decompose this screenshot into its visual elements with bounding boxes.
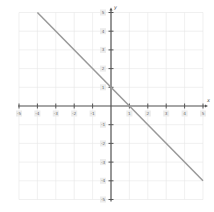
y-tick-label: 5 bbox=[102, 10, 105, 15]
y-tick-label: -1 bbox=[101, 122, 106, 127]
x-tick-label: -3 bbox=[54, 111, 59, 116]
x-tick-label: 5 bbox=[202, 111, 205, 116]
x-axis-label: x bbox=[206, 97, 210, 103]
y-tick-label: 4 bbox=[102, 29, 105, 34]
x-tick-label: -2 bbox=[72, 111, 77, 116]
y-axis-label: y bbox=[113, 4, 118, 11]
y-axis-arrow-icon bbox=[109, 8, 112, 11]
axes bbox=[18, 8, 208, 202]
plotted-line bbox=[37, 13, 203, 181]
y-tick-label: -2 bbox=[101, 141, 106, 146]
x-tick-label: 3 bbox=[165, 111, 168, 116]
x-tick-label: 1 bbox=[128, 111, 131, 116]
y-tick-label: -4 bbox=[101, 178, 106, 183]
y-tick-label: -5 bbox=[101, 197, 106, 202]
x-tick-label: -1 bbox=[91, 111, 96, 116]
line-series bbox=[37, 13, 203, 181]
x-tick-label: -5 bbox=[17, 111, 22, 116]
y-tick-label: 1 bbox=[102, 85, 105, 90]
y-tick-label: -3 bbox=[101, 160, 106, 165]
x-tick-label: -4 bbox=[35, 111, 40, 116]
x-axis-arrow-icon bbox=[205, 104, 208, 107]
y-tick-label: 2 bbox=[102, 66, 105, 71]
y-tick-label: 3 bbox=[102, 47, 105, 52]
x-tick-label: 4 bbox=[183, 111, 186, 116]
x-tick-label: 2 bbox=[146, 111, 149, 116]
coordinate-plane: -5-4-3-2-11234554321-1-2-3-4-5 x y bbox=[0, 0, 214, 212]
